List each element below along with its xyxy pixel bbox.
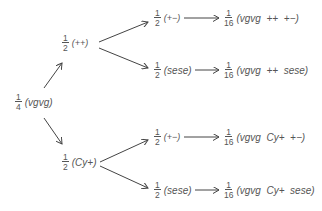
fraction: 116 (224, 128, 233, 146)
node-plusminus-bottom: 12 (+−) (154, 128, 180, 146)
genotype-label: (vgvg ++ +−) (236, 13, 298, 24)
genotype-label: (+−) (164, 13, 181, 23)
node-plusplus: 12 (++) (62, 34, 88, 52)
genotype-label: (++) (72, 38, 89, 48)
fraction: 12 (154, 61, 161, 79)
result-4: 116 (vgvg Cy+ sese) (224, 181, 315, 199)
result-3: 116 (vgvg Cy+ +−) (224, 128, 305, 146)
fraction: 116 (224, 9, 233, 27)
genotype-label: (Cy+) (72, 157, 97, 168)
genotype-label: (vgvg Cy+ +−) (236, 132, 305, 143)
result-1: 116 (vgvg ++ +−) (224, 9, 299, 27)
fraction: 12 (62, 34, 69, 52)
fraction: 116 (224, 181, 233, 199)
fraction: 12 (154, 181, 161, 199)
arrow-cy-to-plusminus (100, 140, 148, 162)
fraction: 14 (15, 93, 22, 111)
arrow-root-to-cy (44, 118, 62, 144)
genotype-label: (vgvg Cy+ sese) (236, 185, 314, 196)
arrow-cy-to-sese (100, 166, 148, 188)
arrow-root-to-plusplus (44, 63, 62, 88)
genotype-label: (vgvg ++ sese) (236, 65, 308, 76)
node-plusminus-top: 12 (+−) (154, 9, 180, 27)
genotype-label: (sese) (164, 65, 192, 76)
node-root: 14 (vgvg) (15, 93, 53, 111)
arrow-plusplus-to-sese (99, 48, 148, 68)
fraction: 12 (154, 9, 161, 27)
genotype-label: (vgvg) (25, 97, 53, 108)
result-2: 116 (vgvg ++ sese) (224, 61, 308, 79)
node-sese-bottom: 12 (sese) (154, 181, 192, 199)
arrow-plusplus-to-plusminus (99, 22, 148, 42)
node-cy: 12 (Cy+) (62, 153, 96, 171)
fraction: 116 (224, 61, 233, 79)
node-sese-top: 12 (sese) (154, 61, 192, 79)
fraction: 12 (62, 153, 69, 171)
genotype-label: (sese) (164, 185, 192, 196)
genotype-label: (+−) (164, 132, 181, 142)
fraction: 12 (154, 128, 161, 146)
